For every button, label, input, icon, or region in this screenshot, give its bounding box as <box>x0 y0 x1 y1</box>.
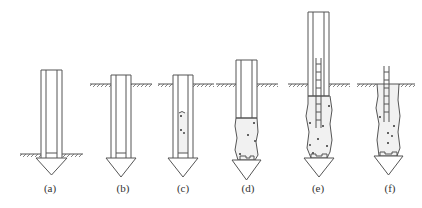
pile-shoe-icon <box>36 158 67 175</box>
pile-shoe-icon <box>232 160 261 180</box>
ground-line <box>90 84 152 87</box>
casing-tube <box>236 60 257 118</box>
ground-line <box>216 84 278 87</box>
step-label-a: (a) <box>44 182 56 194</box>
concrete-bulb <box>235 118 258 160</box>
step-label-d: (d) <box>242 182 255 194</box>
pile-construction-diagram <box>0 0 422 208</box>
ground-line <box>288 84 350 87</box>
pile-shoe-icon <box>168 158 198 177</box>
step-label-f: (f) <box>385 182 396 194</box>
concrete-pile-body <box>376 84 400 156</box>
step-c-figure <box>158 75 214 177</box>
casing-tube <box>308 12 329 96</box>
step-label-b: (b) <box>117 182 130 194</box>
step-b-figure <box>90 75 152 177</box>
pile-shoe-icon <box>106 158 136 177</box>
casing-tube <box>41 70 62 158</box>
concrete-fill <box>178 112 188 153</box>
concrete-bulb <box>306 96 332 158</box>
pile-shoe-icon <box>304 158 334 177</box>
step-d-figure <box>216 60 278 180</box>
pile-shoe-icon <box>374 156 403 175</box>
step-f-figure <box>357 66 415 175</box>
casing-tube <box>111 75 131 158</box>
step-label-c: (c) <box>177 182 189 194</box>
step-label-e: (e) <box>312 182 324 194</box>
ground-line <box>20 154 83 157</box>
ground-line <box>158 84 214 87</box>
step-a-figure <box>20 70 83 175</box>
step-e-figure <box>288 12 350 177</box>
